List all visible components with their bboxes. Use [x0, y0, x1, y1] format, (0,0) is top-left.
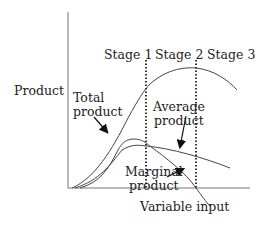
stage-2-label: Stage 2: [155, 48, 203, 62]
marginal-product-label: Marginal product: [125, 165, 183, 193]
y-axis-label: Product: [14, 84, 64, 98]
stage-1-label: Stage 1: [104, 48, 152, 62]
total-product-label: Total product: [73, 91, 123, 119]
production-stages-diagram: Product Variable input Stage 1 Stage 2 S…: [0, 0, 264, 235]
stage-3-label: Stage 3: [207, 48, 255, 62]
total-product-arrow: [94, 117, 107, 132]
x-axis-label: Variable input: [140, 200, 229, 214]
average-product-label: Average product: [153, 100, 205, 128]
